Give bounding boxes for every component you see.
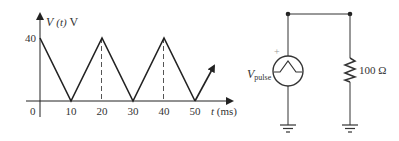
ground-left-icon	[280, 125, 296, 132]
x-axis-label: t (ms)	[211, 105, 237, 118]
y-tick-40: 40	[25, 32, 37, 44]
x-tick-20: 20	[97, 105, 109, 117]
ground-right-icon	[342, 125, 358, 132]
figure: V (t) V 40 0 10 20 30 40 50 t (ms)	[0, 0, 399, 141]
pulse-shape-icon	[274, 61, 302, 72]
x-tick-40: 40	[159, 105, 171, 117]
x-tick-30: 30	[128, 105, 140, 117]
resistor-icon	[345, 58, 355, 82]
waveform-graph: V (t) V 40 0 10 20 30 40 50 t (ms)	[25, 14, 237, 118]
origin-label: 0	[30, 105, 36, 117]
x-tick-50: 50	[190, 105, 202, 117]
x-tick-10: 10	[66, 105, 78, 117]
resistor-label: 100 Ω	[359, 64, 386, 76]
source-polarity-plus: +	[274, 46, 280, 57]
source-label: Vpulse	[247, 67, 272, 82]
triangle-waveform	[40, 38, 195, 101]
continuation-arrow	[195, 66, 214, 101]
circuit-schematic	[273, 12, 358, 132]
y-axis-label: V (t) V	[46, 15, 79, 29]
